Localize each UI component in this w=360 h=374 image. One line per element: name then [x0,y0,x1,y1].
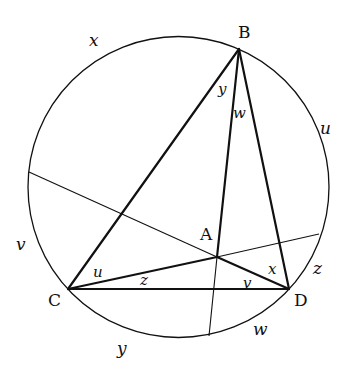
circumcircle [28,37,329,338]
chord-A-to-bottom [209,257,217,336]
point-label-d: D [294,290,308,310]
angle-label-w: w [233,104,246,122]
segment-AD [217,257,289,289]
thin-chords [29,172,319,336]
angle-label-v: v [243,274,252,292]
arc-label-x: x [89,30,99,50]
point-label-c: C [48,290,61,310]
angle-labels: ywuzvx [93,80,277,292]
segment-BC [68,49,239,289]
chord-left-to-A [29,172,217,257]
arc-label-z: z [312,258,323,278]
angle-label-z: z [139,271,148,289]
arc-label-w: w [253,319,268,339]
point-label-b: B [238,22,251,42]
chord-A-to-right [217,234,319,257]
arc-label-y: y [116,338,127,358]
geometry-diagram: BCDA xuvzwy ywuzvx [0,0,360,374]
angle-label-u: u [93,263,103,281]
angle-label-x: x [268,260,277,278]
arc-label-v: v [16,234,26,254]
angle-label-y: y [217,80,227,98]
triangle-segments [68,49,289,289]
point-label-a: A [199,224,213,244]
segment-BD [239,49,289,289]
arc-label-u: u [320,118,331,138]
